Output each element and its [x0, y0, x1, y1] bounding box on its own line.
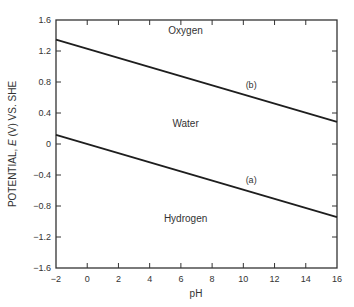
- plot-area-border: [56, 20, 337, 268]
- y-tick-label: −1.2: [33, 232, 51, 242]
- x-axis-ticks: −20246810121416: [51, 20, 342, 284]
- x-axis-title: pH: [190, 288, 203, 299]
- y-tick-label: −0.4: [33, 170, 51, 180]
- y-axis-title-part3: (V) VS. SHE: [7, 81, 18, 140]
- x-tick-label: 14: [301, 274, 311, 284]
- region-label-water: Water: [172, 118, 199, 129]
- y-tick-label: 1.6: [38, 15, 51, 25]
- y-tick-label: 0.8: [38, 77, 51, 87]
- x-tick-label: −2: [51, 274, 61, 284]
- series-label-b: (b): [246, 80, 257, 90]
- y-axis-ticks: 1.61.20.80.40−0.4−0.8−1.2−1.6: [33, 15, 337, 273]
- series-line-b: [56, 40, 337, 122]
- y-tick-label: −0.8: [33, 201, 51, 211]
- x-tick-label: 4: [147, 274, 152, 284]
- series-label-a: (a): [246, 175, 257, 185]
- x-tick-label: 0: [85, 274, 90, 284]
- y-axis-title: POTENTIAL, E (V) VS. SHE: [7, 81, 18, 207]
- y-tick-label: 0: [46, 139, 51, 149]
- y-tick-label: 1.2: [38, 46, 51, 56]
- region-label-hydrogen: Hydrogen: [164, 213, 207, 224]
- y-axis-title-part1: POTENTIAL,: [7, 146, 18, 207]
- x-tick-label: 16: [332, 274, 342, 284]
- y-tick-label: 0.4: [38, 108, 51, 118]
- x-tick-label: 2: [116, 274, 121, 284]
- pourbaix-chart: −20246810121416 1.61.20.80.40−0.4−0.8−1.…: [0, 0, 354, 307]
- x-tick-label: 12: [270, 274, 280, 284]
- region-label-oxygen: Oxygen: [168, 25, 202, 36]
- x-tick-label: 6: [178, 274, 183, 284]
- x-tick-label: 8: [210, 274, 215, 284]
- plot-frame: [56, 20, 337, 268]
- series-line-a: [56, 135, 337, 217]
- y-tick-label: −1.6: [33, 263, 51, 273]
- region-labels: OxygenWaterHydrogen: [164, 25, 207, 224]
- x-tick-label: 10: [238, 274, 248, 284]
